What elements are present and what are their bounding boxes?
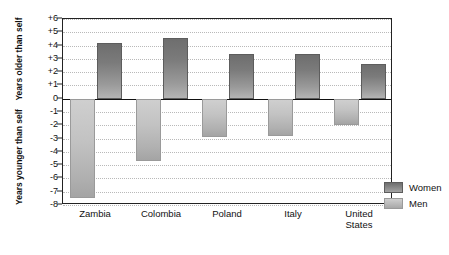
chart-container: Years older than self Years younger than…: [0, 0, 449, 255]
y-axis-tick-label: -6: [36, 172, 58, 182]
bar-italy-women: [295, 54, 320, 99]
y-axis-tick-label: +1: [36, 79, 58, 89]
y-axis-tick-label: +3: [36, 53, 58, 63]
x-axis-label-line: Italy: [255, 208, 331, 219]
gridline: [63, 205, 391, 206]
bar-zambia-men: [70, 99, 95, 199]
bars-layer: [63, 19, 391, 203]
y-axis-tick-label: -3: [36, 133, 58, 143]
x-axis-label-line: Zambia: [57, 208, 133, 219]
y-axis-tick-labels: +6+5+4+3+2+10-1-2-3-4-5-6-7-8: [32, 18, 58, 204]
y-axis-tick-label: +5: [36, 26, 58, 36]
x-axis-label-poland: Poland: [189, 208, 265, 219]
bar-italy-men: [268, 99, 293, 136]
legend-swatch-women: [384, 182, 403, 193]
bar-colombia-men: [136, 99, 161, 161]
y-axis-tick-label: +2: [36, 66, 58, 76]
y-axis-tick-label: -5: [36, 159, 58, 169]
x-axis-label-line: States: [321, 219, 397, 230]
bar-united-states-men: [334, 99, 359, 126]
bar-colombia-women: [163, 38, 188, 99]
bar-zambia-women: [97, 43, 122, 99]
bar-united-states-women: [361, 64, 386, 99]
legend-label-women: Women: [409, 182, 442, 193]
plot-area: [62, 18, 392, 204]
x-axis-label-line: Colombia: [123, 208, 199, 219]
y-axis-tick-label: -8: [36, 199, 58, 209]
y-axis-tick-label: -1: [36, 106, 58, 116]
y-axis-tick-label: -7: [36, 186, 58, 196]
x-axis-label-zambia: Zambia: [57, 208, 133, 219]
y-axis-tick-label: 0: [36, 93, 58, 103]
y-axis-tick-label: +6: [36, 13, 58, 23]
x-axis-label-colombia: Colombia: [123, 208, 199, 219]
x-axis-label-italy: Italy: [255, 208, 331, 219]
bar-poland-women: [229, 54, 254, 99]
y-axis-tick-label: -2: [36, 119, 58, 129]
y-axis-tick-label: -4: [36, 146, 58, 156]
legend-label-men: Men: [409, 198, 427, 209]
legend-item-men: Men: [384, 198, 442, 209]
legend-swatch-men: [384, 198, 403, 209]
x-axis-label-line: Poland: [189, 208, 265, 219]
chart-legend: WomenMen: [384, 182, 442, 214]
y-axis-tick-label: +4: [36, 40, 58, 50]
legend-item-women: Women: [384, 182, 442, 193]
bar-poland-men: [202, 99, 227, 138]
